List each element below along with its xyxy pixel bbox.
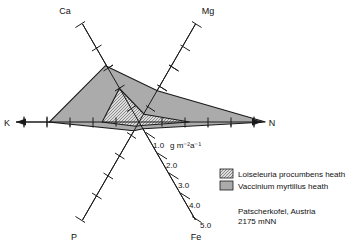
legend-label-loiseleuria: Loiseleuria procumbens heath — [238, 170, 345, 179]
radar-chart-figure: Ca Mg N Fe P — [0, 0, 359, 246]
radial-tick-label-2: 2.0 — [166, 161, 178, 170]
axis-label-p: P — [71, 232, 77, 242]
radial-tick-label-3: 3.0 — [178, 181, 190, 190]
legend-label-vaccinium: Vaccinium myrtillus heath — [238, 182, 328, 191]
axis-label-k: K — [4, 118, 10, 128]
caption-line-1: Patscherkofel, Austria — [238, 207, 316, 216]
axis-label-ca: Ca — [59, 6, 71, 16]
radar-chart-svg: Ca Mg N Fe P — [0, 0, 359, 246]
axis-label-fe: Fe — [191, 232, 202, 242]
caption-line-2: 2175 mNN — [238, 217, 276, 226]
axis-label-n: N — [269, 118, 276, 128]
radial-tick-label-5: 5.0 — [200, 221, 212, 230]
radial-tick-label-4: 4.0 — [189, 201, 201, 210]
radial-unit-label: g m⁻²a⁻¹ — [170, 141, 201, 150]
radial-tick-label-1: 1.0 — [153, 141, 165, 150]
legend-swatch-loiseleuria — [220, 169, 233, 178]
axis-label-mg: Mg — [202, 6, 215, 16]
legend-swatch-vaccinium — [220, 181, 233, 190]
